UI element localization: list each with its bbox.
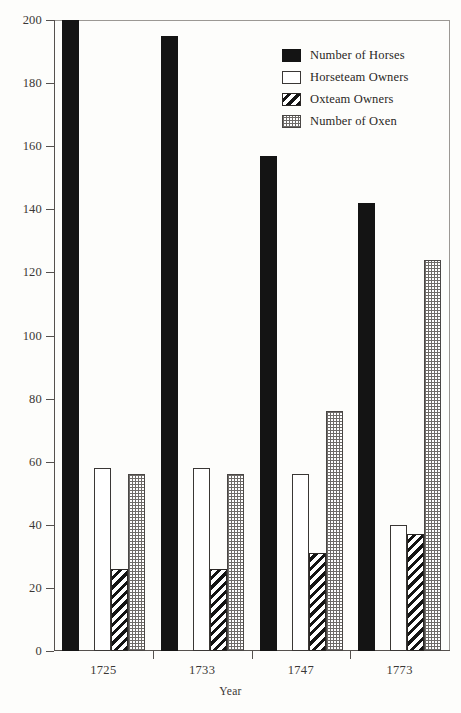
legend-item-horses: Number of Horses: [282, 44, 442, 66]
x-axis-tick: [153, 650, 154, 659]
bar-1747-horses: [260, 156, 277, 651]
x-axis-tick-label: 1725: [90, 663, 116, 678]
y-axis-tick-label: 40: [29, 517, 42, 532]
plot-frame-right: [449, 20, 450, 651]
bar-1733-owners: [193, 468, 210, 651]
y-axis-tick: [46, 588, 54, 589]
legend-swatch-oxen-icon: [282, 115, 301, 128]
y-axis-tick-label: 160: [23, 139, 42, 154]
x-axis-tick: [252, 650, 253, 659]
y-axis-tick: [46, 272, 54, 273]
y-axis-tick-label: 20: [29, 580, 42, 595]
y-axis-tick: [46, 462, 54, 463]
y-axis-tick: [46, 209, 54, 210]
y-axis-tick: [46, 651, 54, 652]
y-axis-tick-label: 80: [29, 391, 42, 406]
bar-1733-oxen: [227, 474, 244, 651]
x-axis-title: Year: [0, 685, 461, 697]
legend-item-horseteam-owners: Horseteam Owners: [282, 66, 442, 88]
legend-item-oxteam-owners: Oxteam Owners: [282, 88, 442, 110]
bar-1747-oxen: [326, 411, 343, 651]
chart-legend: Number of Horses Horseteam Owners Oxteam…: [282, 44, 442, 132]
bar-1773-oxteam: [407, 534, 424, 651]
y-axis-tick: [46, 83, 54, 84]
bar-1773-horses: [358, 203, 375, 651]
y-axis-tick-label: 60: [29, 454, 42, 469]
bar-1733-horses: [161, 36, 178, 651]
y-axis-tick: [46, 525, 54, 526]
x-axis-tick: [350, 650, 351, 659]
bar-1725-oxen: [128, 474, 145, 651]
y-axis-tick: [46, 146, 54, 147]
x-axis-tick-label: 1773: [387, 663, 413, 678]
legend-label-oxen: Number of Oxen: [310, 114, 397, 129]
legend-swatch-horses-icon: [282, 49, 301, 62]
x-axis-tick-label: 1747: [288, 663, 314, 678]
y-axis-tick: [46, 336, 54, 337]
bar-1725-oxteam: [111, 569, 128, 651]
bar-1747-owners: [292, 474, 309, 651]
legend-swatch-oxteam-owners-icon: [282, 93, 301, 106]
y-axis-tick: [46, 20, 54, 21]
legend-label-horseteam-owners: Horseteam Owners: [310, 70, 409, 85]
legend-item-oxen: Number of Oxen: [282, 110, 442, 132]
y-axis-tick-label: 0: [36, 644, 42, 659]
bar-1725-owners: [94, 468, 111, 651]
bar-1773-owners: [390, 525, 407, 651]
bar-1733-oxteam: [210, 569, 227, 651]
y-axis-tick-label: 200: [23, 13, 42, 28]
y-axis-tick-label: 180: [23, 76, 42, 91]
bar-1773-oxen: [424, 260, 441, 651]
legend-label-horses: Number of Horses: [310, 48, 405, 63]
x-axis-tick-label: 1733: [189, 663, 215, 678]
bar-chart-figure: 020406080100120140160180200 172517331747…: [0, 0, 461, 713]
y-axis-tick-label: 100: [23, 328, 42, 343]
y-axis-tick: [46, 399, 54, 400]
legend-swatch-horseteam-owners-icon: [282, 71, 301, 84]
legend-label-oxteam-owners: Oxteam Owners: [310, 92, 394, 107]
y-axis-tick-label: 140: [23, 202, 42, 217]
y-axis-tick-label: 120: [23, 265, 42, 280]
bar-1725-horses: [62, 20, 79, 651]
bar-1747-oxteam: [309, 553, 326, 651]
